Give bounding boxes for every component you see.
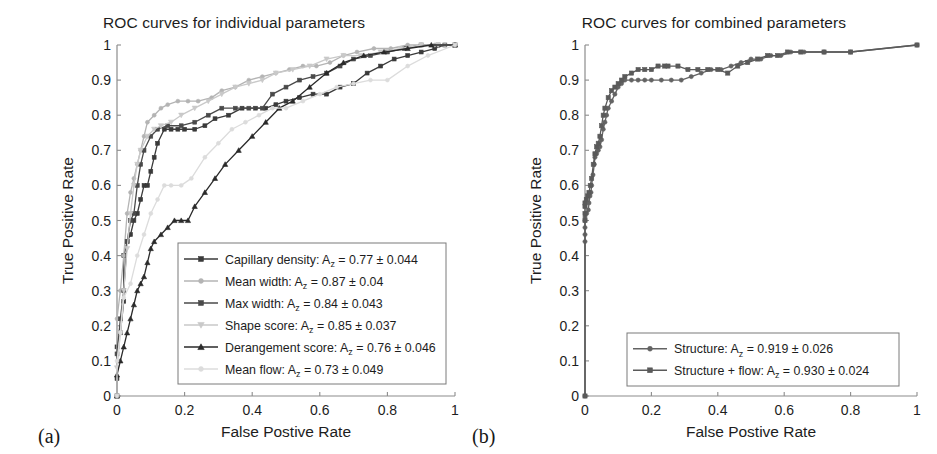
panel-a-plot: 00.10.20.30.40.50.60.70.80.9100.20.40.60… xyxy=(0,0,468,454)
y-tick-label: 0.2 xyxy=(560,318,580,334)
data-marker xyxy=(257,113,261,117)
y-axis-title: True Positive Rate xyxy=(59,157,76,284)
x-tick-label: 0.4 xyxy=(708,402,728,418)
y-tick-label: 0.5 xyxy=(92,213,112,229)
data-marker xyxy=(186,99,190,103)
data-marker xyxy=(145,120,149,124)
data-marker xyxy=(785,50,789,54)
data-marker xyxy=(138,281,143,286)
data-marker xyxy=(822,50,826,54)
y-tick-label: 0.3 xyxy=(92,283,112,299)
y-tick-label: 0.2 xyxy=(92,318,112,334)
data-marker xyxy=(659,78,663,82)
data-marker xyxy=(121,344,126,349)
legend-entry-label: Mean flow: Az = 0.73 ± 0.049 xyxy=(225,363,383,379)
data-marker xyxy=(145,260,150,265)
data-marker xyxy=(453,43,457,47)
data-marker xyxy=(629,78,633,82)
x-axis-title: False Postive Rate xyxy=(221,423,351,440)
data-marker xyxy=(706,67,710,71)
data-marker xyxy=(756,57,760,61)
data-marker xyxy=(139,197,143,201)
data-marker xyxy=(203,124,207,128)
data-marker xyxy=(115,394,119,398)
data-marker xyxy=(131,302,136,307)
data-marker xyxy=(598,134,602,138)
data-marker xyxy=(141,274,146,279)
data-marker xyxy=(271,92,275,96)
data-marker xyxy=(583,218,587,222)
data-marker xyxy=(122,254,126,258)
x-tick-label: 0.4 xyxy=(242,402,262,418)
data-marker xyxy=(148,246,153,251)
legend: Structure: Az = 0.919 ± 0.026Structure +… xyxy=(627,333,899,386)
data-marker xyxy=(606,96,610,100)
y-tick-label: 0.8 xyxy=(560,107,580,123)
data-marker xyxy=(766,53,770,57)
data-marker xyxy=(230,127,234,131)
data-marker xyxy=(649,78,653,82)
data-marker xyxy=(156,141,160,145)
data-marker xyxy=(284,106,288,110)
data-marker xyxy=(335,85,339,89)
y-tick-label: 0 xyxy=(571,388,579,404)
data-marker xyxy=(271,106,275,110)
y-tick-label: 0.3 xyxy=(560,283,580,299)
x-tick-label: 0.2 xyxy=(642,402,662,418)
x-tick-label: 1 xyxy=(913,402,921,418)
data-marker xyxy=(603,106,607,110)
data-marker xyxy=(216,141,220,145)
y-tick-label: 0.7 xyxy=(92,142,112,158)
data-marker xyxy=(135,254,139,258)
data-marker xyxy=(156,197,160,201)
y-tick-label: 0.1 xyxy=(92,353,112,369)
data-marker xyxy=(298,78,302,82)
legend-entry-label: Max width: Az = 0.84 ± 0.043 xyxy=(225,297,383,313)
data-marker xyxy=(385,78,389,82)
data-marker xyxy=(122,296,126,300)
legend-entry-label: Structure: Az = 0.919 ± 0.026 xyxy=(674,342,833,358)
y-tick-label: 0.9 xyxy=(560,72,580,88)
data-marker xyxy=(775,53,779,57)
x-tick-label: 0 xyxy=(113,402,121,418)
data-marker xyxy=(729,64,733,68)
data-marker xyxy=(648,346,653,351)
data-marker xyxy=(311,75,315,79)
data-marker xyxy=(590,176,594,180)
data-marker xyxy=(623,74,627,78)
data-marker xyxy=(129,282,133,286)
y-tick-label: 0.9 xyxy=(92,72,112,88)
data-marker xyxy=(636,67,640,71)
data-marker xyxy=(314,64,318,68)
roc-figure: ROC curves for individual parameters 00.… xyxy=(0,0,937,454)
data-marker xyxy=(149,212,153,216)
data-marker xyxy=(915,43,919,47)
data-marker xyxy=(676,64,680,68)
data-marker xyxy=(203,155,207,159)
x-tick-label: 0.8 xyxy=(378,402,398,418)
data-marker xyxy=(193,120,197,124)
y-tick-label: 0.8 xyxy=(92,107,112,123)
y-tick-label: 0.7 xyxy=(560,142,580,158)
y-tick-label: 1 xyxy=(571,37,579,53)
data-marker xyxy=(118,331,122,335)
data-marker xyxy=(152,155,156,159)
data-marker xyxy=(419,50,423,54)
data-marker xyxy=(379,64,383,68)
panel-b: ROC curves for combined parameters 00.10… xyxy=(469,0,937,454)
data-marker xyxy=(666,64,670,68)
data-marker xyxy=(583,211,587,215)
data-marker xyxy=(145,183,149,187)
data-marker xyxy=(196,99,200,103)
legend-entry-label: Derangement score: Az = 0.76 ± 0.046 xyxy=(225,341,436,357)
data-marker xyxy=(686,67,690,71)
y-tick-label: 0.6 xyxy=(92,177,112,193)
x-tick-label: 0 xyxy=(581,402,589,418)
data-marker xyxy=(406,64,410,68)
data-marker xyxy=(199,279,204,284)
data-marker xyxy=(849,50,853,54)
data-marker xyxy=(406,54,410,58)
data-marker xyxy=(365,71,369,75)
panel-b-label: (b) xyxy=(472,425,495,448)
data-marker xyxy=(199,301,204,306)
